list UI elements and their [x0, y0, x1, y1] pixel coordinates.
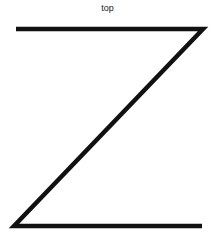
- z-shape-diagram: [0, 0, 215, 243]
- z-shape-stroke: [14, 29, 203, 226]
